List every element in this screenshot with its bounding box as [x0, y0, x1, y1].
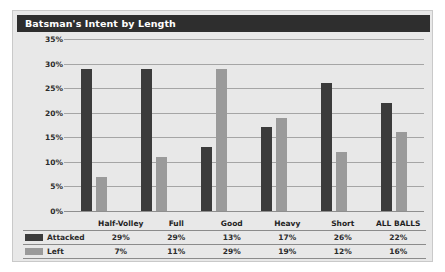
data-cell: 12%: [315, 245, 371, 259]
category-header: Half-Volley: [93, 217, 149, 231]
data-table: Half-VolleyFullGoodHeavyShortALL BALLS A…: [23, 217, 426, 259]
chart-title: Batsman's Intent by Length: [25, 18, 176, 29]
y-axis-tick-label: 10%: [29, 157, 63, 166]
bar-group: [364, 33, 424, 211]
bars-layer: [64, 33, 424, 211]
category-header: Full: [149, 217, 205, 231]
bar-attacked-short: [321, 83, 332, 211]
data-cell: 29%: [204, 245, 260, 259]
series-header: [45, 217, 93, 231]
y-axis-tick-label: 25%: [29, 84, 63, 93]
plot-region: 35%30%25%20%15%10%5%0%: [17, 33, 430, 218]
y-axis-tick-label: 15%: [29, 133, 63, 142]
series-label: Left: [45, 245, 93, 259]
bar-group: [184, 33, 244, 211]
bar-left-full: [156, 157, 167, 211]
data-cell: 26%: [315, 231, 371, 245]
chart-title-bar: Batsman's Intent by Length: [17, 15, 430, 32]
y-axis-tick-label: 30%: [29, 59, 63, 68]
table-row: Attacked29%29%13%17%26%22%: [23, 231, 426, 245]
legend-swatch-left: [25, 248, 43, 255]
data-cell: 17%: [260, 231, 316, 245]
bar-group: [244, 33, 304, 211]
data-cell: 13%: [204, 231, 260, 245]
table-header-row: Half-VolleyFullGoodHeavyShortALL BALLS: [23, 217, 426, 231]
y-axis: 35%30%25%20%15%10%5%0%: [23, 33, 63, 218]
bar-group: [64, 33, 124, 211]
data-cell: 7%: [93, 245, 149, 259]
y-axis-tick-label: 35%: [29, 35, 63, 44]
table-header: Half-VolleyFullGoodHeavyShortALL BALLS: [23, 217, 426, 231]
bar-attacked-all-balls: [381, 103, 392, 211]
legend-swatch-attacked: [25, 234, 43, 241]
bar-group: [124, 33, 184, 211]
category-header: Short: [315, 217, 371, 231]
data-cell: 19%: [260, 245, 316, 259]
data-cell: 29%: [93, 231, 149, 245]
chart-widget: Batsman's Intent by Length 35%30%25%20%1…: [12, 10, 433, 262]
y-axis-tick-label: 0%: [29, 207, 63, 216]
series-label: Attacked: [45, 231, 93, 245]
data-cell: 22%: [371, 231, 427, 245]
table-body: Attacked29%29%13%17%26%22%Left7%11%29%19…: [23, 231, 426, 259]
legend-swatch-cell: [23, 245, 45, 259]
bar-attacked-half-volley: [81, 69, 92, 212]
axis-baseline: [64, 211, 424, 212]
bar-left-good: [216, 69, 227, 212]
category-header: Good: [204, 217, 260, 231]
y-axis-tick-label: 5%: [29, 182, 63, 191]
bar-left-heavy: [276, 118, 287, 211]
y-axis-tick-label: 20%: [29, 108, 63, 117]
legend-swatch-cell: [23, 231, 45, 245]
bar-left-all-balls: [396, 132, 407, 211]
bar-attacked-heavy: [261, 127, 272, 211]
data-cell: 11%: [149, 245, 205, 259]
swatch-header: [23, 217, 45, 231]
grid-area: [64, 33, 424, 218]
bar-left-short: [336, 152, 347, 211]
category-header: ALL BALLS: [371, 217, 427, 231]
bar-left-half-volley: [96, 177, 107, 211]
category-header: Heavy: [260, 217, 316, 231]
bar-attacked-good: [201, 147, 212, 211]
table-row: Left7%11%29%19%12%16%: [23, 245, 426, 259]
data-cell: 16%: [371, 245, 427, 259]
series-value-table: Half-VolleyFullGoodHeavyShortALL BALLS A…: [23, 217, 426, 259]
bar-group: [304, 33, 364, 211]
data-cell: 29%: [149, 231, 205, 245]
bar-attacked-full: [141, 69, 152, 212]
